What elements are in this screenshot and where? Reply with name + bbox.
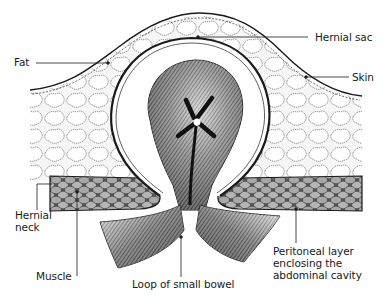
label-fat: Fat [14, 56, 29, 68]
label-loop-of-small-bowel: Loop of small bowel [132, 278, 234, 290]
label-hernial-neck: Hernial neck [15, 209, 52, 233]
label-muscle: Muscle [36, 270, 72, 282]
label-skin: Skin [352, 71, 374, 83]
label-peritoneal-layer: Peritoneal layer enclosing the abdominal… [273, 245, 362, 281]
label-hernial-sac: Hernial sac [315, 31, 372, 43]
